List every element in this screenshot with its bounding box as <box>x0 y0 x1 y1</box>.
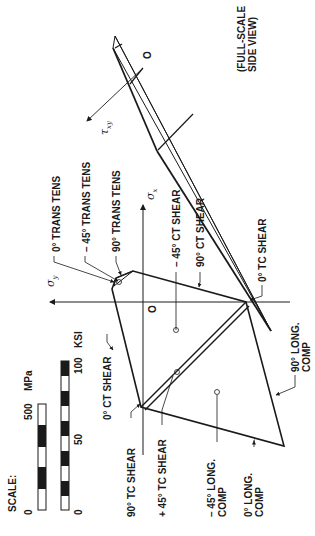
mpa-tick-500: 500 <box>23 403 34 420</box>
label-0-ct-shear: 0° CT SHEAR <box>102 356 113 420</box>
side-view-caption-2: SIDE VIEW) <box>247 17 258 72</box>
label-m45-long-comp-2: COMP <box>217 487 228 517</box>
label-90-long-comp-2: COMP <box>301 342 312 372</box>
ksi-tick-100: 100 <box>73 357 84 374</box>
label-90-ct-shear: 90° CT SHEAR <box>195 197 206 267</box>
label-m45-ct-shear: – 45° CT SHEAR <box>171 189 182 267</box>
failure-envelope-diagram: O τxy (FULL-SCALE SIDE VIEW) σy σx O <box>0 0 315 536</box>
mpa-scale-bar <box>38 404 46 510</box>
ksi-tick-0: 0 <box>73 509 84 515</box>
label-90-trans-tens: 90° TRANS TENS <box>111 170 122 252</box>
mpa-unit: MPa <box>23 370 34 391</box>
label-0-long-comp-2: COMP <box>254 487 265 517</box>
label-m45-long-comp-1: – 45° LONG. <box>206 459 217 517</box>
label-0-trans-tens: 0° TRANS TENS <box>51 175 62 252</box>
mpa-tick-0: 0 <box>23 509 34 515</box>
sigma-x-label: σx <box>144 188 159 200</box>
label-p45-tc-shear: + 45° TC SHEAR <box>157 439 168 517</box>
ksi-scale-bar <box>61 361 69 510</box>
scale-title: SCALE: <box>7 475 18 512</box>
origin-label: O <box>147 305 158 313</box>
label-m45-trans-tens: – 45° TRANS TENS <box>81 162 92 252</box>
side-view-origin: O <box>142 51 153 59</box>
label-90-long-comp-1: 90° LONG. <box>290 322 301 372</box>
ksi-tick-50: 50 <box>73 433 84 445</box>
tau-xy-label: τxy <box>98 120 113 135</box>
sigma-y-label: σy <box>44 274 59 287</box>
ksi-unit: KSI <box>73 331 84 348</box>
scale-legend: SCALE: 0 500 MPa 0 50 100 KSI <box>7 331 84 515</box>
label-0-long-comp-1: 0° LONG. <box>243 473 254 517</box>
label-0-tc-shear: 0° TC SHEAR <box>257 218 268 282</box>
side-view-caption-1: (FULL-SCALE <box>236 6 247 72</box>
label-90-tc-shear: 90° TC SHEAR <box>126 447 137 517</box>
mode-labels: 0° TRANS TENS – 45° TRANS TENS 90° TRANS… <box>51 162 312 517</box>
